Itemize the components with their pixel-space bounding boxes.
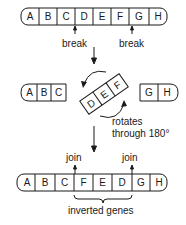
left-gene-c: C bbox=[55, 87, 62, 98]
gene-a: A bbox=[27, 11, 34, 22]
inverted-genes-label: inverted genes bbox=[68, 205, 134, 216]
gene-d: D bbox=[80, 11, 87, 22]
gene-b: B bbox=[45, 11, 52, 22]
res-gene-c: C bbox=[61, 177, 68, 188]
left-gene-a: A bbox=[26, 87, 33, 98]
down-arrow-1 bbox=[92, 47, 97, 64]
join-label-left: join bbox=[65, 152, 82, 163]
gene-h: H bbox=[154, 11, 161, 22]
res-gene-e: E bbox=[99, 177, 106, 188]
gene-e: E bbox=[99, 11, 106, 22]
break-arrows bbox=[74, 26, 134, 34]
rotates-label: rotates bbox=[112, 116, 143, 127]
right-gene-h: H bbox=[163, 87, 170, 98]
break-label-left: break bbox=[62, 38, 88, 49]
join-arrows bbox=[74, 165, 134, 174]
original-chromosome bbox=[21, 8, 167, 25]
gene-c: C bbox=[62, 11, 69, 22]
gene-f: F bbox=[117, 11, 123, 22]
res-gene-b: B bbox=[42, 177, 49, 188]
res-gene-a: A bbox=[24, 177, 31, 188]
left-gene-b: B bbox=[41, 87, 48, 98]
res-gene-h: H bbox=[155, 177, 162, 188]
break-label-right: break bbox=[119, 38, 145, 49]
gene-g: G bbox=[135, 11, 143, 22]
res-gene-g: G bbox=[137, 177, 145, 188]
through-180-label: through 180° bbox=[112, 128, 169, 139]
right-gene-g: G bbox=[145, 87, 153, 98]
rotating-fragment: D E F bbox=[80, 74, 128, 115]
inverted-genes-bracket bbox=[74, 195, 132, 203]
join-label-right: join bbox=[121, 152, 138, 163]
inversion-diagram: A B C D E F G H break break A B C D E F bbox=[0, 0, 186, 225]
down-arrow-2 bbox=[92, 126, 97, 152]
original-gene-labels: A B C D E F G H bbox=[27, 11, 162, 22]
res-gene-f: F bbox=[80, 177, 86, 188]
res-gene-d: D bbox=[118, 177, 125, 188]
